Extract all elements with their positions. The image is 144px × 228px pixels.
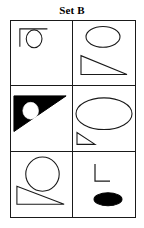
small-circle-shape [26,30,42,48]
cell-5-drawing [11,152,72,217]
white-circle-shape [23,103,39,120]
figure-grid [10,20,136,218]
cell-6-drawing [73,152,135,217]
corner-angle-shape [20,29,48,47]
large-ellipse-shape [76,98,132,130]
ellipse-shape [86,26,120,47]
figure-cell-top-left [11,21,73,86]
right-triangle-shape [81,56,127,75]
figure-cell-top-right [73,21,135,86]
cell-1-drawing [11,21,72,85]
filled-ellipse-shape [94,192,122,205]
figure-cell-bottom-left [11,152,73,217]
small-triangle-shape [77,133,95,145]
right-triangle-shape [17,186,64,204]
l-angle-shape [95,164,110,181]
page-title: Set B [0,0,144,18]
filled-triangle-shape [14,96,66,132]
cell-2-drawing [73,21,135,85]
cell-4-drawing [73,86,135,150]
large-circle-shape [26,157,59,191]
figure-cell-middle-left [11,86,73,151]
cell-3-drawing [11,86,72,150]
figure-cell-bottom-right [73,152,135,217]
figure-cell-middle-right [73,86,135,151]
